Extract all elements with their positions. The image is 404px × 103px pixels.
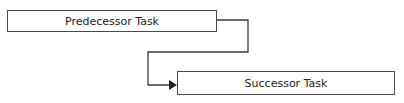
predecessor-task-box[interactable]: Predecessor Task	[7, 10, 217, 32]
successor-task-box[interactable]: Successor Task	[177, 71, 395, 95]
arrow-head-icon	[169, 80, 177, 90]
successor-task-label: Successor Task	[245, 77, 328, 90]
predecessor-task-label: Predecessor Task	[65, 15, 159, 28]
